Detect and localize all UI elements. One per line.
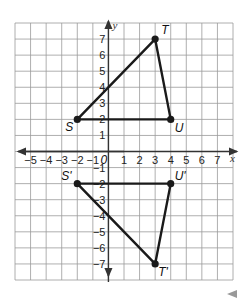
vertex-point xyxy=(167,180,174,187)
vertex-point xyxy=(167,116,174,123)
x-axis-label: x xyxy=(229,152,235,164)
y-axis-label: y xyxy=(111,19,117,31)
y-tick-label: 3 xyxy=(99,97,105,109)
vertex-point xyxy=(152,35,159,42)
vertex-label: U xyxy=(175,121,184,135)
vertex-point xyxy=(74,116,81,123)
x-tick-label: −3 xyxy=(55,154,68,166)
x-tick-label: −4 xyxy=(40,154,53,166)
vertex-label: T' xyxy=(158,265,168,279)
vertex-label: U' xyxy=(175,169,187,183)
tick-labels: yx0−5−4−3−2−112345671234567−1−2−3−4−5−6−… xyxy=(24,19,235,270)
y-tick-label: −3 xyxy=(93,194,106,206)
x-tick-label: 5 xyxy=(183,154,189,166)
y-tick-label: 1 xyxy=(99,129,105,141)
y-tick-label: 7 xyxy=(99,33,105,45)
x-tick-label: −5 xyxy=(24,154,37,166)
vertex-point xyxy=(74,180,81,187)
y-tick-label: −5 xyxy=(93,226,106,238)
y-tick-label: 5 xyxy=(99,65,105,77)
left-arrow-icon[interactable] xyxy=(227,290,237,298)
x-tick-label: 3 xyxy=(152,154,158,166)
x-tick-label: 2 xyxy=(137,154,143,166)
y-tick-label: −6 xyxy=(93,242,106,254)
x-tick-label: 4 xyxy=(168,154,174,166)
vertex-label: S xyxy=(65,120,73,134)
y-tick-label: −7 xyxy=(93,258,106,270)
x-tick-label: −2 xyxy=(71,154,84,166)
y-tick-label: 6 xyxy=(99,49,105,61)
y-tick-label: −1 xyxy=(93,162,106,174)
vertex-label: S' xyxy=(61,169,72,183)
x-tick-label: 1 xyxy=(121,154,127,166)
vertex-label: T xyxy=(161,23,170,37)
x-tick-label: 7 xyxy=(214,154,220,166)
x-tick-label: 6 xyxy=(199,154,205,166)
coordinate-plane: yx0−5−4−3−2−112345671234567−1−2−3−4−5−6−… xyxy=(0,0,251,299)
axes xyxy=(18,21,237,282)
